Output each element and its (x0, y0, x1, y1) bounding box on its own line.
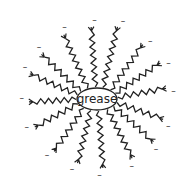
negative-charge-label: – (24, 122, 29, 132)
negative-charge-label: – (129, 161, 134, 171)
surfactant-tail (89, 31, 97, 87)
polar-head (39, 52, 44, 57)
polar-head (61, 34, 66, 39)
micelle-svg: –––––––––––––––– grease (0, 0, 192, 189)
negative-charge-label: – (97, 170, 102, 180)
surfactant-tail (97, 111, 105, 164)
negative-charge-label: – (148, 36, 153, 46)
grease-label: grease (77, 92, 118, 106)
negative-charge-label: – (171, 86, 176, 96)
surfactant-tail (33, 97, 76, 104)
surfactant-tail (114, 106, 151, 139)
negative-charge-label: – (166, 58, 171, 68)
polar-head (130, 155, 135, 160)
negative-charge-label: – (166, 121, 171, 131)
polar-head (141, 43, 146, 48)
polar-head (75, 159, 80, 164)
negative-charge-label: – (62, 22, 67, 32)
polar-head (162, 86, 167, 92)
negative-charge-label: – (70, 164, 75, 174)
polar-head (52, 148, 57, 153)
polar-head (159, 116, 164, 121)
surfactant-tail (118, 87, 162, 99)
surfactant-tail (65, 39, 88, 89)
negative-charge-label: – (154, 144, 159, 154)
negative-charge-label: – (45, 150, 50, 160)
polar-head (157, 61, 162, 66)
polar-head (29, 71, 34, 76)
polar-head (33, 124, 38, 129)
polar-head (29, 99, 33, 105)
surfactant-tail (56, 108, 83, 148)
polar-head (115, 26, 120, 31)
surfactant-tail (34, 75, 78, 95)
surfactant-tail (78, 111, 92, 160)
negative-charge-label: – (20, 93, 25, 103)
surfactant-tail (111, 48, 141, 90)
negative-charge-label: – (92, 15, 97, 25)
negative-charge-label: – (37, 42, 42, 52)
surfactant-tail (44, 57, 80, 91)
polar-head (88, 27, 94, 31)
negative-charge-label: – (23, 62, 28, 72)
micelle-diagram: –––––––––––––––– grease (0, 0, 192, 189)
surfactant-tail (38, 104, 78, 126)
polar-head (100, 164, 106, 168)
negative-charge-label: – (121, 16, 126, 26)
polar-head (151, 139, 156, 144)
surfactant-tail (102, 31, 117, 88)
